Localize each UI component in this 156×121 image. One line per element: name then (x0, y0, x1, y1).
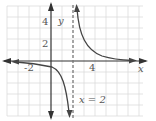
arrow-up-icon (48, 2, 54, 11)
curve-arrow-down-icon (67, 110, 73, 118)
curve-arrow-right-icon (129, 58, 137, 64)
x-tick-label-4: 4 (89, 62, 95, 73)
arrow-left-icon (2, 58, 11, 64)
x-tick-label-neg2: -2 (24, 62, 34, 73)
y-tick-label-2: 2 (42, 38, 48, 49)
curve-arrow-left-icon (11, 59, 19, 65)
arrow-down-icon (48, 111, 54, 120)
asymptote-label: x = 2 (79, 94, 106, 105)
curve-right-branch (74, 4, 137, 63)
y-axis-label: y (57, 15, 64, 26)
curve-left-branch (11, 59, 73, 118)
x-axis-label: x (138, 63, 144, 74)
curve-arrow-up-icon (74, 4, 80, 12)
y-tick-label-4: 4 (42, 16, 48, 27)
rational-function-graph: 4 2 -2 4 y x x = 2 (0, 0, 156, 121)
